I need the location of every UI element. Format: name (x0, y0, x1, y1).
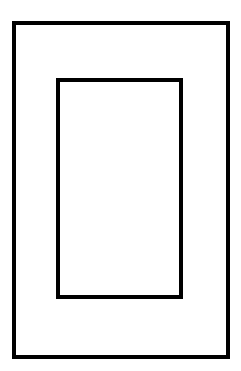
inner-rectangle (56, 78, 183, 299)
